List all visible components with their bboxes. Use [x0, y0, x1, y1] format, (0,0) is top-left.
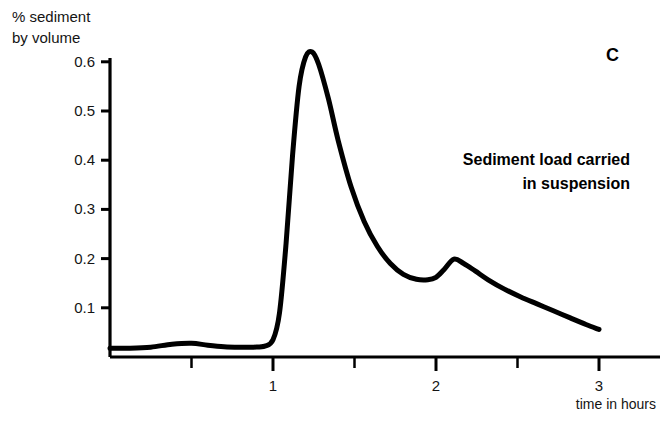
x-tick-label: 2	[432, 377, 440, 394]
y-tick-label: 0.6	[74, 53, 95, 70]
y-tick-label: 0.3	[74, 200, 95, 217]
y-tick-label: 0.5	[74, 102, 95, 119]
x-tick-label: 3	[595, 377, 603, 394]
y-tick-label: 0.4	[74, 151, 95, 168]
y-tick-label: 0.2	[74, 250, 95, 267]
y-tick-label: 0.1	[74, 299, 95, 316]
x-tick-label: 1	[269, 377, 277, 394]
chart-page: % sediment by volume C Sediment load car…	[0, 0, 668, 429]
y-axis-ticks: 0.10.20.30.40.50.6	[74, 53, 110, 316]
x-axis-ticks: 123	[192, 357, 604, 394]
sediment-load-curve	[110, 51, 599, 348]
chart-plot: 0.10.20.30.40.50.6 123	[0, 0, 668, 429]
